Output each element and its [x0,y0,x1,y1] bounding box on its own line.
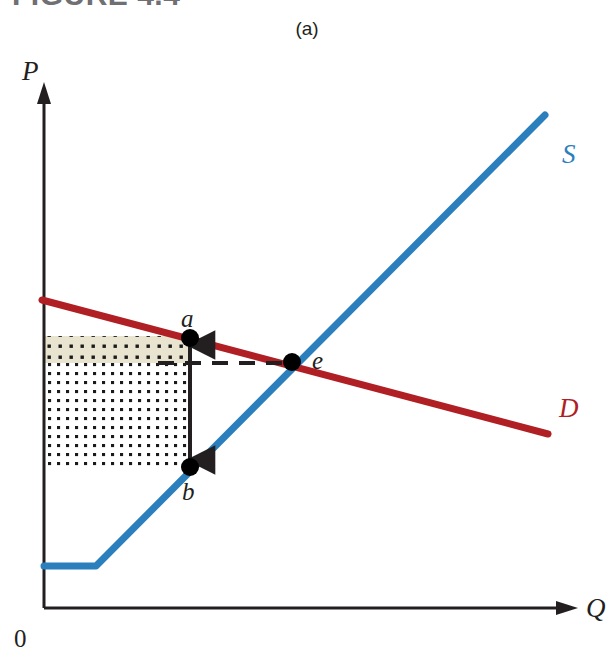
lower-shaded-band [44,363,190,467]
p-axis-arrowhead [37,82,51,104]
point-e-label: e [312,347,323,374]
p-axis-label: P [21,56,39,86]
upper-shaded-band [44,336,190,363]
q-axis-arrowhead [556,601,578,615]
point-a-label: a [181,305,194,332]
point-e [283,353,301,371]
supply-demand-chart: P Q 0 S D a b e [0,0,614,657]
supply-curve-label: S [562,139,576,169]
demand-curve-label: D [558,393,579,423]
origin-label: 0 [14,625,27,652]
point-b-label: b [182,478,195,505]
shaded-regions [44,336,190,467]
figure-container: FIGURE 4.4 (a) [0,0,614,657]
q-axis-label: Q [586,593,606,623]
point-b [181,458,199,476]
